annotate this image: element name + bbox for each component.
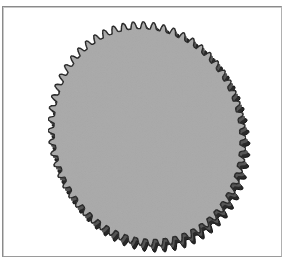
gear-icon — [48, 22, 250, 252]
gear-illustration — [0, 0, 290, 263]
